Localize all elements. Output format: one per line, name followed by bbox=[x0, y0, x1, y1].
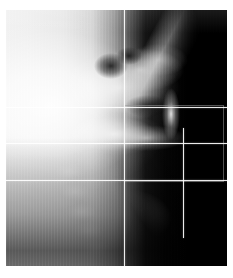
primary-vertical-line bbox=[124, 10, 125, 266]
middle-reference-line bbox=[6, 143, 227, 144]
radiograph-viewport bbox=[0, 0, 233, 278]
upper-reference-line bbox=[6, 107, 227, 108]
secondary-vertical-line bbox=[183, 128, 184, 238]
measurement-overlay bbox=[6, 10, 227, 266]
radiograph-image bbox=[6, 10, 227, 266]
lower-reference-line bbox=[6, 180, 227, 181]
